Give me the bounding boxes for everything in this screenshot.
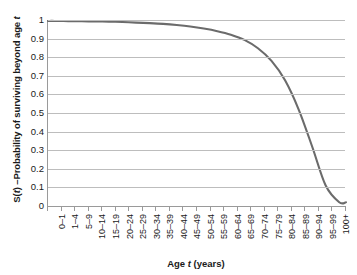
x-tick-label: 80–84 [288,214,297,258]
x-tick-mark [142,206,143,211]
x-tick-label: 0–1 [58,214,67,258]
x-tick-mark [61,206,62,211]
y-tick-label: 0.1 [18,183,44,193]
x-tick-mark [331,206,332,211]
gridline [48,113,345,114]
y-tick-label: 0.3 [18,145,44,155]
plot-area [47,20,345,206]
x-tick-label: 35–39 [166,214,175,258]
x-tick-label: 70–74 [261,214,270,258]
gridline [48,39,345,40]
x-tick-label: 100+ [342,214,351,258]
x-tick-label: 55–59 [220,214,229,258]
gridline [48,76,345,77]
x-tick-label: 45–49 [193,214,202,258]
x-tick-label: 15–19 [112,214,121,258]
gridline [48,150,345,151]
x-tick-mark [318,206,319,211]
gridline [48,169,345,170]
x-tick-mark [101,206,102,211]
y-tick-label: 1 [18,15,44,25]
x-tick-mark [237,206,238,211]
x-tick-mark [223,206,224,211]
y-tick-label: 0.8 [18,52,44,62]
x-tick-label: 95–99 [329,214,338,258]
y-tick-label: 0.7 [18,71,44,81]
x-tick-mark [169,206,170,211]
x-tick-mark [196,206,197,211]
x-tick-mark [155,206,156,211]
x-tick-label: 5–9 [85,214,94,258]
x-tick-label: 25–29 [139,214,148,258]
y-tick-label: 0 [18,201,44,211]
x-tick-label: 85–89 [302,214,311,258]
x-tick-mark [304,206,305,211]
gridline [48,132,345,133]
x-tick-label: 30–34 [153,214,162,258]
x-axis-title: Age t (years) [47,258,345,269]
survival-curve-chart: S(t) –Probability of surviving beyond ag… [0,0,357,275]
x-tick-label: 75–79 [275,214,284,258]
y-tick-label: 0.6 [18,90,44,100]
gridline [48,94,345,95]
x-tick-mark [47,206,48,211]
x-tick-label: 40–44 [180,214,189,258]
x-tick-mark [291,206,292,211]
y-tick-label: 0.2 [18,164,44,174]
x-tick-mark [74,206,75,211]
x-tick-mark [264,206,265,211]
x-tick-mark [277,206,278,211]
x-tick-mark [128,206,129,211]
x-tick-mark [345,206,346,211]
x-tick-label: 10–14 [98,214,107,258]
x-tick-label: 90–94 [315,214,324,258]
x-tick-mark [182,206,183,211]
x-tick-mark [115,206,116,211]
gridline [48,187,345,188]
gridline [48,57,345,58]
x-tick-label: 60–64 [234,214,243,258]
x-tick-mark [250,206,251,211]
y-tick-label: 0.4 [18,127,44,137]
y-axis-tick-labels: 00.10.20.30.40.50.60.70.80.91 [18,14,44,206]
x-tick-label: 50–54 [207,214,216,258]
x-tick-label: 65–69 [247,214,256,258]
x-tick-mark [210,206,211,211]
x-tick-mark [88,206,89,211]
x-axis-tick-labels: 0–11–45–910–1415–1920–2425–2930–3435–394… [47,212,345,256]
x-tick-label: 20–24 [126,214,135,258]
y-tick-label: 0.9 [18,34,44,44]
gridline [48,20,345,21]
y-tick-label: 0.5 [18,108,44,118]
x-tick-label: 1–4 [71,214,80,258]
